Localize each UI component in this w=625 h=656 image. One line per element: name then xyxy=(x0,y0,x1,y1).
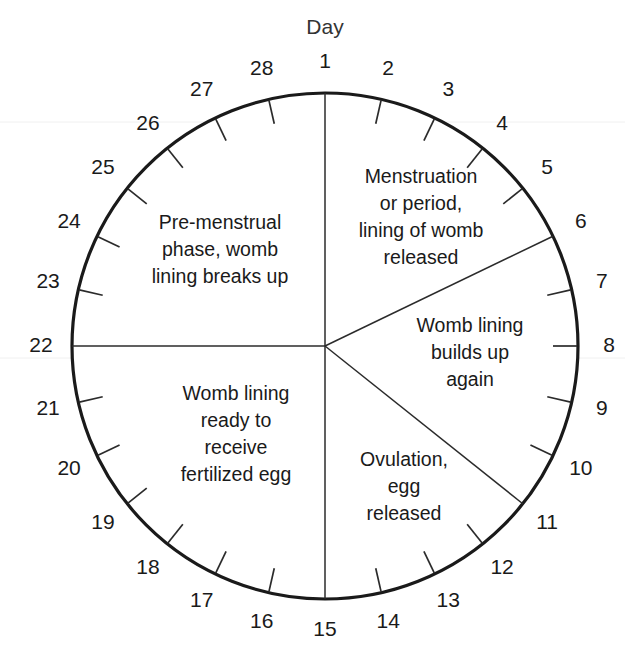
day-label-23: 23 xyxy=(36,269,59,292)
day-label-26: 26 xyxy=(136,111,159,134)
phase-label-line: again xyxy=(446,368,494,390)
phase-label-line: Womb lining xyxy=(183,382,290,404)
day-label-16: 16 xyxy=(250,609,273,632)
day-label-17: 17 xyxy=(190,588,213,611)
phase-label-line: released xyxy=(384,246,459,268)
day-label-2: 2 xyxy=(382,56,394,79)
day-label-5: 5 xyxy=(541,155,553,178)
day-label-21: 21 xyxy=(36,396,59,419)
day-label-24: 24 xyxy=(57,209,81,232)
day-label-13: 13 xyxy=(437,588,460,611)
day-label-19: 19 xyxy=(91,510,114,533)
cycle-wheel-svg: 1234567891011121314151617181920212223242… xyxy=(0,0,625,656)
phase-label-line: fertilized egg xyxy=(181,463,292,485)
day-label-15: 15 xyxy=(313,617,336,640)
day-label-8: 8 xyxy=(603,333,615,356)
day-label-28: 28 xyxy=(250,56,273,79)
phase-label-line: receive xyxy=(205,436,268,458)
phase-label-line: Ovulation, xyxy=(360,448,448,470)
day-label-12: 12 xyxy=(490,555,513,578)
day-label-22: 22 xyxy=(29,333,52,356)
phase-label-line: phase, womb xyxy=(162,238,278,260)
day-label-10: 10 xyxy=(569,456,592,479)
phase-label-line: Womb lining xyxy=(417,314,524,336)
page-title: Day xyxy=(306,15,344,38)
day-label-25: 25 xyxy=(91,155,114,178)
day-label-4: 4 xyxy=(496,111,508,134)
day-label-7: 7 xyxy=(596,269,608,292)
day-label-6: 6 xyxy=(575,209,587,232)
phase-label-line: released xyxy=(367,502,442,524)
phase-label-line: lining of womb xyxy=(359,219,484,241)
day-label-1: 1 xyxy=(319,49,331,72)
phase-label-line: builds up xyxy=(431,341,509,363)
day-label-3: 3 xyxy=(442,77,454,100)
phase-label-line: ready to xyxy=(201,409,272,431)
day-label-14: 14 xyxy=(377,609,401,632)
phase-label-line: lining breaks up xyxy=(152,265,289,287)
phase-label-pre-menstrual: Pre-menstrualphase, womblining breaks up xyxy=(152,211,289,287)
phase-label-line: Pre-menstrual xyxy=(159,211,281,233)
phase-label-line: egg xyxy=(388,475,421,497)
day-label-11: 11 xyxy=(536,510,558,533)
day-label-27: 27 xyxy=(190,77,213,100)
day-label-9: 9 xyxy=(596,396,608,419)
day-label-20: 20 xyxy=(57,456,80,479)
phase-label-line: Menstruation xyxy=(365,165,478,187)
menstrual-cycle-diagram: 1234567891011121314151617181920212223242… xyxy=(0,0,625,656)
phase-label-line: or period, xyxy=(380,192,462,214)
day-label-18: 18 xyxy=(136,555,159,578)
